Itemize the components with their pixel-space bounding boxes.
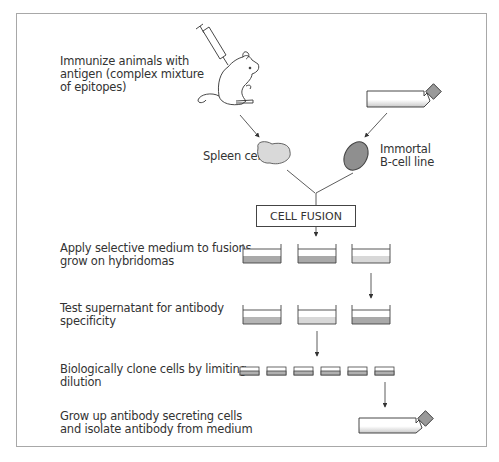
culture-dish-row-2 bbox=[243, 305, 390, 324]
mouse-with-syringe-icon bbox=[196, 24, 259, 105]
diagram-graphics bbox=[0, 0, 499, 462]
b-cell-icon bbox=[339, 138, 373, 175]
culture-flask-icon bbox=[359, 411, 433, 433]
spleen-cell-icon bbox=[258, 142, 291, 164]
culture-dish-row-3 bbox=[240, 367, 394, 375]
cell-fusion-box: CELL FUSION bbox=[256, 205, 356, 227]
arrow-icon bbox=[365, 113, 387, 137]
culture-flask-icon bbox=[367, 84, 441, 107]
arrow-icon bbox=[240, 115, 259, 137]
culture-dish-row-1 bbox=[243, 244, 390, 263]
